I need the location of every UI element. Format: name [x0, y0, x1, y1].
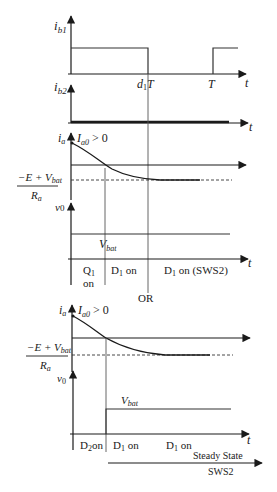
interval-d1-on: D1 on	[111, 264, 137, 278]
tick-T: T	[208, 77, 216, 91]
v0-upper-axis-label: v0	[55, 201, 65, 213]
panel-ia-upper: ia Ia0 > 0 −E + Vbat Ra	[17, 131, 246, 203]
panel-ia-lower: ia Ia0 > 0 −E + Vbat Ra	[26, 303, 250, 373]
ia-upper-initial-point	[71, 142, 74, 145]
ia-lower-axis-label: ia	[59, 303, 66, 318]
or-separator: OR	[138, 292, 154, 304]
panel-v0-lower: v0 Vbat t D2on D1 on D1 on Steady State …	[57, 371, 262, 477]
v0-upper-t-label: t	[248, 256, 252, 270]
ib1-pulse-1	[71, 48, 148, 74]
ib2-axis-label: ib2	[54, 79, 67, 96]
interval-d1-on-b: D1 on	[166, 439, 192, 453]
steady-state-label: Steady State	[193, 450, 243, 461]
v0-lower-axis-label: v0	[57, 372, 66, 386]
waveform-diagram: ib1 t d1T T ib2 t ia Ia0 > 0 −E + Vbat R…	[0, 0, 277, 492]
tick-d1T: d1T	[137, 77, 155, 92]
ia-lower-initial-label: Ia0 > 0	[77, 303, 109, 319]
ia-lower-decay-curve	[73, 316, 210, 355]
v0-lower-vbat-step	[106, 409, 231, 434]
v0-lower-t-label: t	[247, 433, 251, 447]
ib2-t-label: t	[249, 120, 253, 134]
ib1-pulse-2	[213, 48, 238, 74]
v0-upper-vbat-label: Vbat	[99, 237, 117, 253]
svg-text:Ra: Ra	[30, 189, 42, 203]
interval-d1-on-a: D1 on	[113, 439, 139, 453]
ib1-t-label: t	[245, 76, 249, 90]
ia-upper-asymptote-label: −E + Vbat Ra	[17, 171, 63, 203]
interval-q1-on: Q1	[83, 264, 95, 278]
ia-upper-initial-label: Ia0 > 0	[76, 131, 108, 147]
interval-d2-on: D2on	[80, 439, 103, 453]
ib1-axis-label: ib1	[54, 18, 67, 35]
ia-lower-asymptote-label: −E + Vbat Ra	[26, 341, 72, 373]
ia-upper-axis-label: ia	[58, 131, 65, 146]
svg-text:Ra: Ra	[39, 359, 51, 373]
svg-text:−E + Vbat: −E + Vbat	[27, 341, 72, 355]
interval-q1-on-line2: on	[83, 277, 95, 289]
v0-lower-vbat-label: Vbat	[121, 394, 139, 408]
panel-v0-upper: v0 Vbat t Q1 on D1 on D1 on (SWS2)	[55, 201, 252, 289]
ia-lower-initial-point	[72, 315, 75, 318]
interval-d1-on-sws2: D1 on (SWS2)	[164, 264, 228, 278]
svg-text:−E + Vbat: −E + Vbat	[18, 171, 63, 185]
sws2-label: SWS2	[208, 466, 234, 477]
ia-upper-decay-curve	[72, 143, 200, 180]
panel-ib1: ib1 t d1T T	[54, 16, 249, 92]
